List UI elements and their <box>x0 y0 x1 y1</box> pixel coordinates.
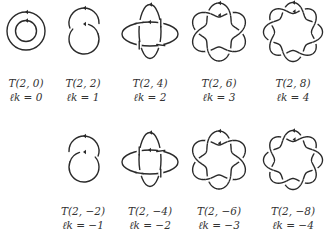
knot-T2_m8 <box>264 128 323 189</box>
component-a <box>69 8 99 28</box>
linking-number: ℓk = 4 <box>258 90 328 104</box>
link-name: T(2, 8) <box>258 76 328 90</box>
linking-number: ℓk = −2 <box>115 218 185 232</box>
linking-number: ℓk = −3 <box>184 218 254 232</box>
outer-component <box>7 12 45 50</box>
component-b <box>270 137 316 183</box>
linking-number: ℓk = 2 <box>115 90 185 104</box>
orientation-arrow-icon <box>83 6 86 10</box>
link-name: T(2, 2) <box>48 76 118 90</box>
component-b <box>193 12 246 61</box>
knot-T2_4 <box>122 2 178 58</box>
orientation-arrow-icon <box>149 130 152 134</box>
component-b-segment <box>89 24 99 33</box>
link-label-T2_2: T(2, 2)ℓk = 1 <box>48 76 118 104</box>
link-label-T2_m4: T(2, −4)ℓk = −2 <box>115 204 185 232</box>
component-a <box>193 3 246 52</box>
component-vertical <box>139 133 161 187</box>
knot-T2_2 <box>69 6 99 54</box>
component-b-segment <box>70 152 80 161</box>
link-label-T2_6: T(2, 6)ℓk = 3 <box>184 76 254 104</box>
orientation-arrow-icon <box>25 18 28 22</box>
linking-number: ℓk = 1 <box>48 90 118 104</box>
link-label-T2_m6: T(2, −6)ℓk = −3 <box>184 204 254 232</box>
orientation-arrow-icon <box>25 10 28 14</box>
component-b <box>69 29 99 54</box>
orientation-arrow-icon <box>218 1 221 5</box>
component-horizontal <box>122 150 178 174</box>
knot-T2_8 <box>264 0 323 61</box>
link-name: T(2, −8) <box>258 204 328 218</box>
linking-number: ℓk = 3 <box>184 90 254 104</box>
orientation-arrow-icon <box>292 128 295 132</box>
link-label-T2_m2: T(2, −2)ℓk = −1 <box>48 204 118 232</box>
orientation-arrow-icon <box>292 0 295 4</box>
crossing-strand <box>135 172 143 173</box>
link-name: T(2, 4) <box>115 76 185 90</box>
knot-T2_m2 <box>69 134 99 182</box>
link-name: T(2, −4) <box>115 204 185 218</box>
component-horizontal <box>122 22 178 46</box>
linking-number: ℓk = −4 <box>258 218 328 232</box>
knot-T2_6 <box>193 1 246 61</box>
crossing-strand <box>135 22 143 23</box>
orientation-arrow-icon <box>149 2 152 6</box>
knot-T2_m6 <box>193 129 246 189</box>
link-name: T(2, −2) <box>48 204 118 218</box>
component-a <box>69 136 99 156</box>
orientation-arrow-icon <box>218 129 221 133</box>
link-name: T(2, −6) <box>184 204 254 218</box>
component-vertical <box>139 5 161 59</box>
component-b <box>193 140 246 189</box>
component-b <box>270 9 316 55</box>
knot-T2_m4 <box>122 130 178 186</box>
inner-component <box>16 21 37 42</box>
link-label-T2_8: T(2, 8)ℓk = 4 <box>258 76 328 104</box>
component-a <box>193 131 246 180</box>
link-label-T2_4: T(2, 4)ℓk = 2 <box>115 76 185 104</box>
orientation-arrow-icon <box>83 22 86 26</box>
component-b <box>69 157 99 182</box>
linking-number: ℓk = −1 <box>48 218 118 232</box>
link-name: T(2, 6) <box>184 76 254 90</box>
orientation-arrow-icon <box>83 134 86 138</box>
orientation-arrow-icon <box>83 150 86 154</box>
torus-links-diagram <box>0 0 329 237</box>
link-label-T2_m8: T(2, −8)ℓk = −4 <box>258 204 328 232</box>
orientation-arrow-icon <box>148 148 151 152</box>
knot-T2_0 <box>7 10 45 50</box>
orientation-arrow-icon <box>148 20 151 24</box>
